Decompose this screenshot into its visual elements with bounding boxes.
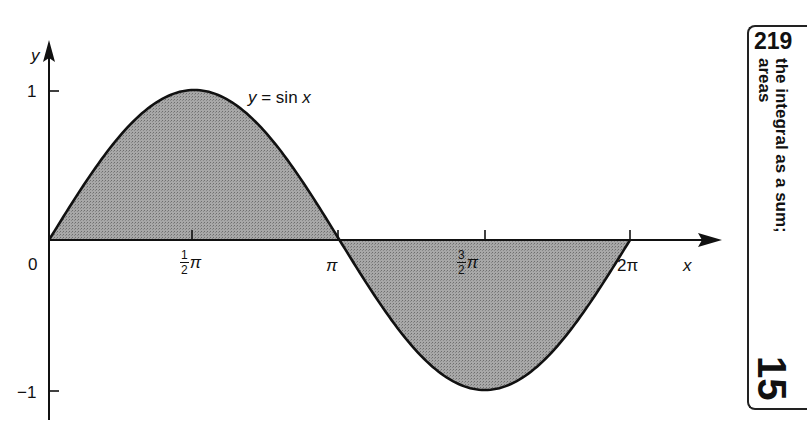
y-tick-label-minus-1: −1 bbox=[17, 384, 36, 401]
y-tick-label-1: 1 bbox=[27, 83, 36, 100]
origin-label: 0 bbox=[28, 256, 37, 273]
y-axis-label: y bbox=[31, 47, 40, 64]
curve-label: y = sin x bbox=[248, 89, 311, 106]
chapter-number: 15 bbox=[750, 356, 794, 400]
x-tick-label-half-pi: 12 π bbox=[180, 249, 201, 276]
section-title: the integral as a sum; areas bbox=[756, 58, 790, 233]
x-tick-label-pi: π bbox=[326, 257, 337, 274]
page-number: 219 bbox=[754, 28, 792, 55]
x-tick-label-two-pi: 2π bbox=[617, 257, 638, 274]
x-axis-label: x bbox=[683, 257, 692, 274]
x-tick-label-three-half-pi: 32 π bbox=[457, 249, 478, 276]
